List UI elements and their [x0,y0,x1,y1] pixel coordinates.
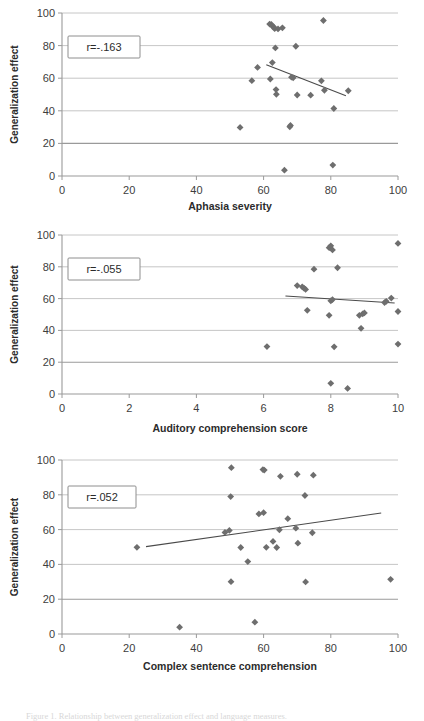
y-tick-label: 0 [49,628,55,640]
y-tick-label: 40 [43,105,55,117]
y-tick-label: 80 [43,489,55,501]
y-axis-title: Generalization effect [9,265,20,364]
y-tick-label: 20 [43,593,55,605]
data-point [327,380,334,387]
y-tick-label: 60 [43,524,55,536]
y-tick-label: 0 [49,388,55,400]
data-point [228,578,235,585]
x-axis-title: Auditory comprehension score [152,422,307,434]
y-tick-label: 100 [37,229,55,241]
data-point [345,87,352,94]
y-tick-label: 100 [37,7,55,19]
x-tick-label: 60 [257,184,269,196]
x-tick-label: 6 [261,402,267,414]
x-tick-label: 40 [190,642,202,654]
x-tick-label: 40 [190,184,202,196]
plot-area-chart-3: 020406080100020406080100r=.052Complex se… [0,444,424,694]
data-point [294,471,301,478]
data-point [310,472,317,479]
trendline [266,65,346,96]
data-point [255,511,262,518]
data-point [304,307,311,314]
x-tick-label: 100 [389,642,407,654]
data-point [134,544,141,551]
scatter-chart-complex-sentence: 020406080100020406080100r=.052Complex se… [0,444,424,694]
plot-area-chart-1: 020406080100020406080100r=-.163Aphasia s… [0,0,424,222]
y-tick-label: 80 [43,40,55,52]
data-point [254,64,261,71]
y-tick-label: 40 [43,324,55,336]
x-tick-label: 8 [328,402,334,414]
figure-caption: Figure 1. Relationship between generaliz… [26,711,287,721]
data-point [309,529,316,536]
data-point [334,264,341,271]
data-point [320,17,327,24]
y-axis-title: Generalization effect [9,45,20,144]
scatter-chart-aphasia-severity: 020406080100020406080100r=-.163Aphasia s… [0,0,424,222]
data-point [302,579,309,586]
y-tick-label: 0 [49,170,55,182]
data-point [329,162,336,169]
data-point [264,343,271,350]
data-point [344,385,351,392]
y-tick-label: 40 [43,558,55,570]
data-point [326,312,333,319]
data-point [237,544,244,551]
x-tick-label: 20 [123,642,135,654]
y-tick-label: 20 [43,356,55,368]
y-tick-label: 80 [43,261,55,273]
data-point [395,240,402,247]
x-tick-label: 0 [59,402,65,414]
data-point [277,473,284,480]
correlation-label: r=.052 [86,491,118,503]
x-tick-label: 100 [389,184,407,196]
data-point [292,43,299,50]
x-tick-label: 80 [325,642,337,654]
x-axis-title: Aphasia severity [188,200,272,212]
y-axis-title: Generalization effect [9,497,20,596]
data-point [395,341,402,348]
data-point [270,538,277,545]
data-point [307,92,314,99]
correlation-label: r=-.163 [86,41,121,53]
trendline [285,296,394,303]
data-point [302,492,309,499]
data-point [331,343,338,350]
data-point [387,576,394,583]
data-point [395,308,402,315]
data-point [263,544,270,551]
data-point [294,540,301,547]
x-tick-label: 80 [325,184,337,196]
y-tick-label: 60 [43,293,55,305]
y-tick-label: 100 [37,454,55,466]
data-point [273,544,280,551]
x-tick-label: 20 [123,184,135,196]
x-tick-label: 4 [193,402,199,414]
data-point [267,76,274,83]
plot-area-chart-2: 0204060801000246810r=-.055Auditory compr… [0,222,424,444]
data-point [294,92,301,99]
x-tick-label: 2 [126,402,132,414]
data-point [176,624,183,631]
y-tick-label: 20 [43,137,55,149]
data-point [269,59,276,66]
data-point [228,464,235,471]
data-point [281,167,288,174]
data-point [251,619,258,626]
x-axis-title: Complex sentence comprehension [143,660,317,672]
x-tick-label: 0 [59,642,65,654]
data-point [260,509,267,516]
correlation-label: r=-.055 [86,263,121,275]
data-point [388,295,395,302]
data-point [237,124,244,131]
scatter-chart-auditory-comprehension: 0204060801000246810r=-.055Auditory compr… [0,222,424,444]
y-tick-label: 60 [43,72,55,84]
x-tick-label: 60 [257,642,269,654]
data-point [244,558,251,565]
data-point [284,515,291,522]
x-tick-label: 0 [59,184,65,196]
data-point [294,282,301,289]
x-tick-label: 10 [392,402,404,414]
data-point [273,91,280,98]
